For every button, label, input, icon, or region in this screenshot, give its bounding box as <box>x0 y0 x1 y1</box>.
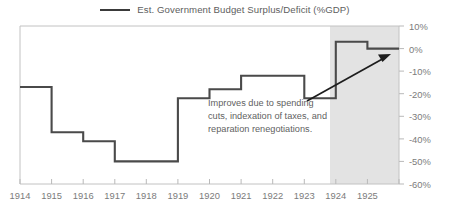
annotation-line-1: Improves due to spending <box>208 97 384 110</box>
x-tick-label: 1916 <box>73 190 94 201</box>
x-tick-label: 1924 <box>325 190 346 201</box>
x-tick-label: 1923 <box>294 190 315 201</box>
x-tick-label: 1922 <box>262 190 283 201</box>
x-tick-label: 1914 <box>10 190 31 201</box>
y-tick-label: -50% <box>409 156 431 167</box>
x-tick-label: 1919 <box>167 190 188 201</box>
x-tick-label: 1917 <box>104 190 125 201</box>
x-tick-label: 1920 <box>199 190 220 201</box>
y-tick-label: -20% <box>409 88 431 99</box>
y-tick-label: -30% <box>409 111 431 122</box>
annotation-line-2: cuts, indexation of taxes, and <box>208 110 384 123</box>
x-tick-label: 1925 <box>357 190 378 201</box>
x-tick-label: 1921 <box>231 190 252 201</box>
y-tick-label: 10% <box>409 21 428 32</box>
chart-annotation: Improves due to spending cuts, indexatio… <box>208 97 384 137</box>
y-tick-label: -40% <box>409 133 431 144</box>
y-axis-ticks <box>399 26 404 184</box>
y-tick-label: -10% <box>409 66 431 77</box>
x-tick-label: 1915 <box>41 190 62 201</box>
chart-container: Est. Government Budget Surplus/Deficit (… <box>0 0 450 212</box>
y-tick-label: 0% <box>409 43 423 54</box>
x-tick-label: 1918 <box>136 190 157 201</box>
annotation-line-3: reparation renegotiations. <box>208 123 384 136</box>
y-tick-label: -60% <box>409 179 431 190</box>
